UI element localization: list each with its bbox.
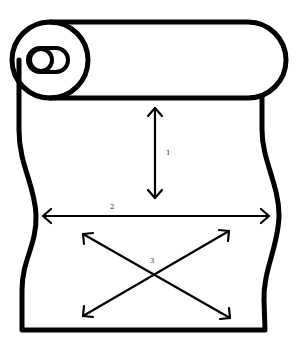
label-vertical: 1 xyxy=(166,149,170,157)
label-diagonal: 3 xyxy=(150,257,154,265)
label-horizontal: 2 xyxy=(110,203,114,211)
arrow-diagonal-1 xyxy=(83,233,230,319)
arrow-horizontal xyxy=(43,209,269,223)
roll-core-hole xyxy=(30,49,52,71)
roll-body xyxy=(50,22,286,98)
arrow-vertical xyxy=(148,108,162,198)
paper-roll-diagram: 1 2 3 xyxy=(0,0,302,352)
